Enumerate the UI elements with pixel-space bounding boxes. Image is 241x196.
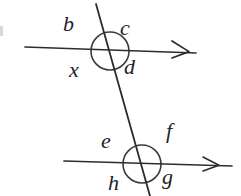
upper-parallel-line <box>25 47 196 53</box>
geometry-diagram: b c x d e f h g <box>0 0 241 196</box>
angle-label-e: e <box>101 130 111 152</box>
angle-label-h: h <box>108 172 119 194</box>
lower-line-arrowhead <box>203 157 219 171</box>
angle-label-f: f <box>166 120 172 142</box>
angle-label-g: g <box>162 166 173 188</box>
lower-parallel-line <box>64 161 232 166</box>
angle-label-c: c <box>120 17 130 39</box>
angle-label-x: x <box>69 59 79 81</box>
upper-line-arrowhead <box>172 41 189 58</box>
angle-label-d: d <box>124 56 135 78</box>
angle-label-b: b <box>63 13 74 35</box>
